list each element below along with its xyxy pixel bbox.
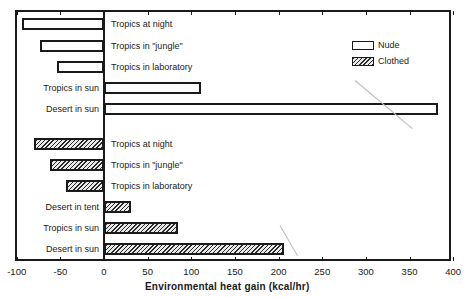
bar-clothed-2 — [66, 180, 104, 192]
bar-nude-1 — [40, 40, 104, 52]
x-tick-label: -100 — [7, 266, 26, 277]
category-label: Desert in sun — [46, 103, 99, 115]
bar-nude-3 — [104, 82, 201, 94]
x-tick-label: 0 — [101, 266, 106, 277]
x-tick-top — [60, 11, 61, 15]
category-label: Desert in tent — [45, 201, 99, 213]
x-tick — [366, 257, 367, 261]
category-label: Tropics in laboratory — [111, 61, 192, 73]
x-tick — [17, 257, 18, 261]
x-tick-label: 50 — [142, 266, 153, 277]
x-tick — [235, 257, 236, 261]
category-label: Tropics in sun — [43, 222, 99, 234]
x-tick-top — [322, 11, 323, 15]
x-tick-label: 350 — [402, 266, 418, 277]
x-tick — [410, 257, 411, 261]
legend-swatch-nude — [352, 41, 374, 50]
heat-gain-bar-chart: Tropics at nightTropics in "jungle"Tropi… — [0, 0, 466, 297]
x-tick-top — [17, 11, 18, 15]
bar-clothed-1 — [50, 159, 104, 171]
x-tick — [322, 257, 323, 261]
x-tick-label: 250 — [314, 266, 330, 277]
category-label: Desert in sun — [46, 243, 99, 255]
x-tick — [191, 257, 192, 261]
x-tick-label: -50 — [53, 266, 67, 277]
bar-clothed-4 — [104, 222, 178, 234]
x-tick-label: 100 — [183, 266, 199, 277]
x-tick — [453, 257, 454, 261]
category-label: Tropics in laboratory — [111, 180, 192, 192]
x-tick-label: 300 — [358, 266, 374, 277]
legend-label-nude: Nude — [378, 40, 400, 50]
x-tick-label: 400 — [445, 266, 461, 277]
bar-clothed-5 — [104, 243, 284, 255]
x-axis-label: Environmental heat gain (kcal/hr) — [145, 281, 309, 292]
x-tick-top — [148, 11, 149, 15]
category-label: Tropics in "jungle" — [111, 40, 183, 52]
category-label: Tropics in sun — [43, 82, 99, 94]
bar-nude-0 — [22, 18, 104, 30]
category-label: Tropics at night — [111, 138, 172, 150]
x-tick-top — [366, 11, 367, 15]
x-tick — [60, 257, 61, 261]
x-tick-top — [410, 11, 411, 15]
category-label: Tropics in "jungle" — [111, 159, 183, 171]
bar-clothed-0 — [34, 138, 104, 150]
x-tick-top — [104, 11, 105, 15]
x-tick — [104, 257, 105, 261]
category-label: Tropics at night — [111, 18, 172, 30]
x-tick-top — [453, 11, 454, 15]
x-tick-top — [235, 11, 236, 15]
legend-swatch-clothed — [352, 57, 374, 66]
x-tick — [148, 257, 149, 261]
legend-label-clothed: Clothed — [378, 56, 409, 66]
x-tick-top — [279, 11, 280, 15]
bar-nude-2 — [57, 61, 104, 73]
x-tick-top — [191, 11, 192, 15]
x-tick-label: 200 — [271, 266, 287, 277]
x-tick-label: 150 — [227, 266, 243, 277]
bar-clothed-3 — [104, 201, 131, 213]
x-tick — [279, 257, 280, 261]
